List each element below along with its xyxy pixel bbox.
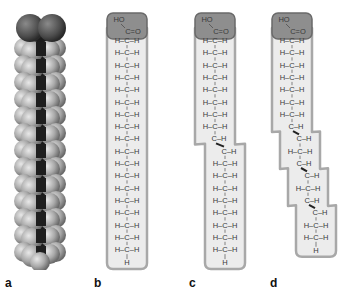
svg-text:H–C–H: H–C–H (115, 233, 140, 242)
svg-text:H–C–H: H–C–H (280, 85, 305, 94)
svg-text:H–C–H: H–C–H (115, 61, 140, 70)
svg-text:H–C–H: H–C–H (115, 196, 140, 205)
svg-text:H–C–H: H–C–H (115, 171, 140, 180)
svg-text:HO: HO (278, 15, 289, 24)
svg-text:H–C–H: H–C–H (280, 98, 305, 107)
svg-text:H–C–H: H–C–H (203, 73, 228, 82)
svg-text:H–C–H: H–C–H (280, 36, 305, 45)
svg-text:H–C–H: H–C–H (296, 184, 321, 193)
svg-text:H–C–H: H–C–H (115, 245, 140, 254)
svg-text:C–H: C–H (211, 134, 226, 143)
svg-text:H–C–H: H–C–H (213, 159, 238, 168)
svg-text:C–H: C–H (296, 134, 311, 143)
svg-text:C=O: C=O (213, 27, 229, 36)
monounsaturated-fatty-acid-diagram: HOC=OH–C–HH–C–HH–C–HH–C–HH–C–HH–C–HH–C–H… (185, 0, 265, 275)
svg-text:H: H (313, 246, 318, 255)
svg-text:H–C–H: H–C–H (213, 233, 238, 242)
svg-text:H–C–H: H–C–H (213, 245, 238, 254)
svg-text:H–C–H: H–C–H (203, 110, 228, 119)
svg-text:H–C–H: H–C–H (115, 98, 140, 107)
svg-text:H–C–H: H–C–H (213, 208, 238, 217)
svg-text:H–C–H: H–C–H (280, 110, 305, 119)
svg-text:H–C–H: H–C–H (203, 48, 228, 57)
svg-text:H–C–H: H–C–H (288, 147, 313, 156)
panel-c-monounsaturated-chain: HOC=OH–C–HH–C–HH–C–HH–C–HH–C–HH–C–HH–C–H… (185, 0, 265, 275)
svg-text:H–C–H: H–C–H (213, 171, 238, 180)
svg-text:H–C–H: H–C–H (115, 122, 140, 131)
svg-text:H–C–H: H–C–H (115, 184, 140, 193)
svg-text:HO: HO (201, 15, 212, 24)
svg-text:H–C–H: H–C–H (115, 134, 140, 143)
svg-text:HO: HO (113, 15, 124, 24)
panel-label-b: b (94, 276, 101, 290)
svg-text:C=O: C=O (290, 27, 306, 36)
svg-text:H–C–H: H–C–H (115, 48, 140, 57)
space-filling-model-icon (0, 0, 80, 270)
svg-text:H–C–H: H–C–H (203, 122, 228, 131)
svg-text:H–C–H: H–C–H (213, 184, 238, 193)
svg-text:H–C–H: H–C–H (203, 61, 228, 70)
svg-text:H–C–H: H–C–H (213, 221, 238, 230)
svg-text:H–C–H: H–C–H (115, 159, 140, 168)
svg-text:H–C–H: H–C–H (213, 196, 238, 205)
svg-text:C–H: C–H (312, 208, 327, 217)
polyunsaturated-fatty-acid-diagram: HOC=OH–C–HH–C–HH–C–HH–C–HH–C–HH–C–HH–C–H… (265, 0, 351, 275)
panel-label-a: a (5, 276, 12, 290)
svg-text:H–C–H: H–C–H (203, 85, 228, 94)
panel-label-d: d (270, 276, 277, 290)
svg-text:C–H: C–H (304, 196, 319, 205)
svg-text:C–H: C–H (304, 171, 319, 180)
panel-label-c: c (189, 276, 196, 290)
saturated-fatty-acid-diagram: HOC=OH–C–HH–C–HH–C–HH–C–HH–C–HH–C–HH–C–H… (90, 0, 165, 275)
svg-text:H–C–H: H–C–H (280, 48, 305, 57)
svg-text:H–C–H: H–C–H (304, 233, 329, 242)
svg-text:H–C–H: H–C–H (203, 36, 228, 45)
svg-text:H–C–H: H–C–H (115, 85, 140, 94)
svg-text:C–H: C–H (288, 122, 303, 131)
svg-text:H–C–H: H–C–H (115, 73, 140, 82)
svg-text:H–C–H: H–C–H (115, 221, 140, 230)
svg-text:C=O: C=O (125, 27, 141, 36)
svg-text:H–C–H: H–C–H (280, 73, 305, 82)
panel-d-polyunsaturated-chain: HOC=OH–C–HH–C–HH–C–HH–C–HH–C–HH–C–HH–C–H… (265, 0, 351, 275)
panel-b-saturated-chain: HOC=OH–C–HH–C–HH–C–HH–C–HH–C–HH–C–HH–C–H… (90, 0, 165, 275)
svg-text:H: H (222, 258, 227, 267)
svg-text:C–H: C–H (221, 147, 236, 156)
panel-a-space-filling-model (0, 0, 80, 270)
svg-text:H–C–H: H–C–H (304, 221, 329, 230)
svg-text:H–C–H: H–C–H (115, 147, 140, 156)
svg-text:C–H: C–H (296, 159, 311, 168)
svg-text:H–C–H: H–C–H (280, 61, 305, 70)
svg-text:H–C–H: H–C–H (203, 98, 228, 107)
svg-text:H–C–H: H–C–H (115, 208, 140, 217)
svg-text:H: H (124, 258, 129, 267)
svg-text:H–C–H: H–C–H (115, 110, 140, 119)
svg-text:H–C–H: H–C–H (115, 36, 140, 45)
